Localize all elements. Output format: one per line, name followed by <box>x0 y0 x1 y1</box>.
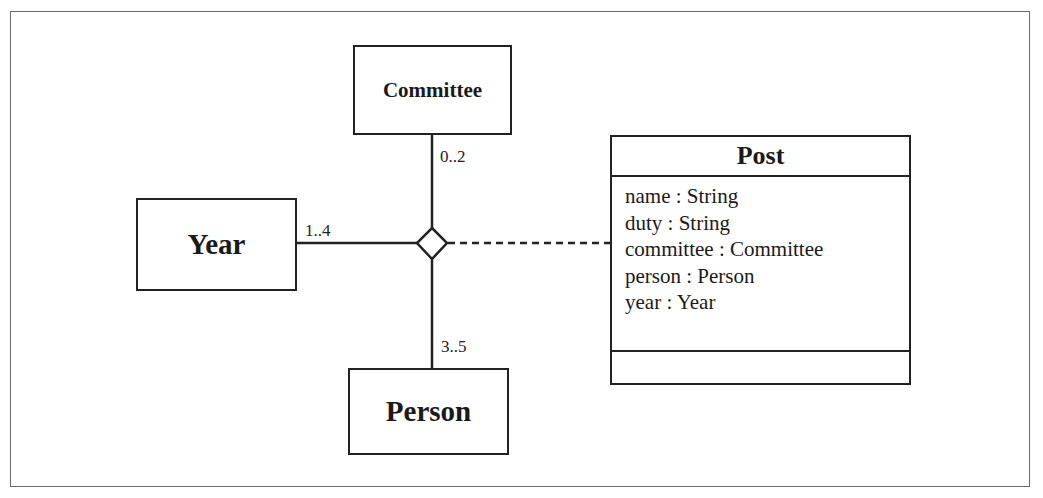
post-attribute: year : Year <box>625 289 909 316</box>
association-class-post: Post name : String duty : String committ… <box>610 135 911 385</box>
post-class-name: Post <box>612 137 909 177</box>
post-attribute: duty : String <box>625 210 909 237</box>
multiplicity-committee: 0..2 <box>440 147 466 167</box>
post-attribute: committee : Committee <box>625 236 909 263</box>
class-person-name: Person <box>386 395 471 428</box>
class-committee-name: Committee <box>383 78 482 103</box>
multiplicity-person: 3..5 <box>441 337 467 357</box>
post-attribute: person : Person <box>625 263 909 290</box>
multiplicity-year: 1..4 <box>305 221 331 241</box>
post-attribute: name : String <box>625 183 909 210</box>
class-year-name: Year <box>188 228 246 261</box>
class-year: Year <box>136 198 297 291</box>
class-committee: Committee <box>353 45 512 135</box>
post-attributes-compartment: name : String duty : String committee : … <box>612 177 909 352</box>
class-person: Person <box>348 368 509 455</box>
association-diamond <box>417 228 447 259</box>
